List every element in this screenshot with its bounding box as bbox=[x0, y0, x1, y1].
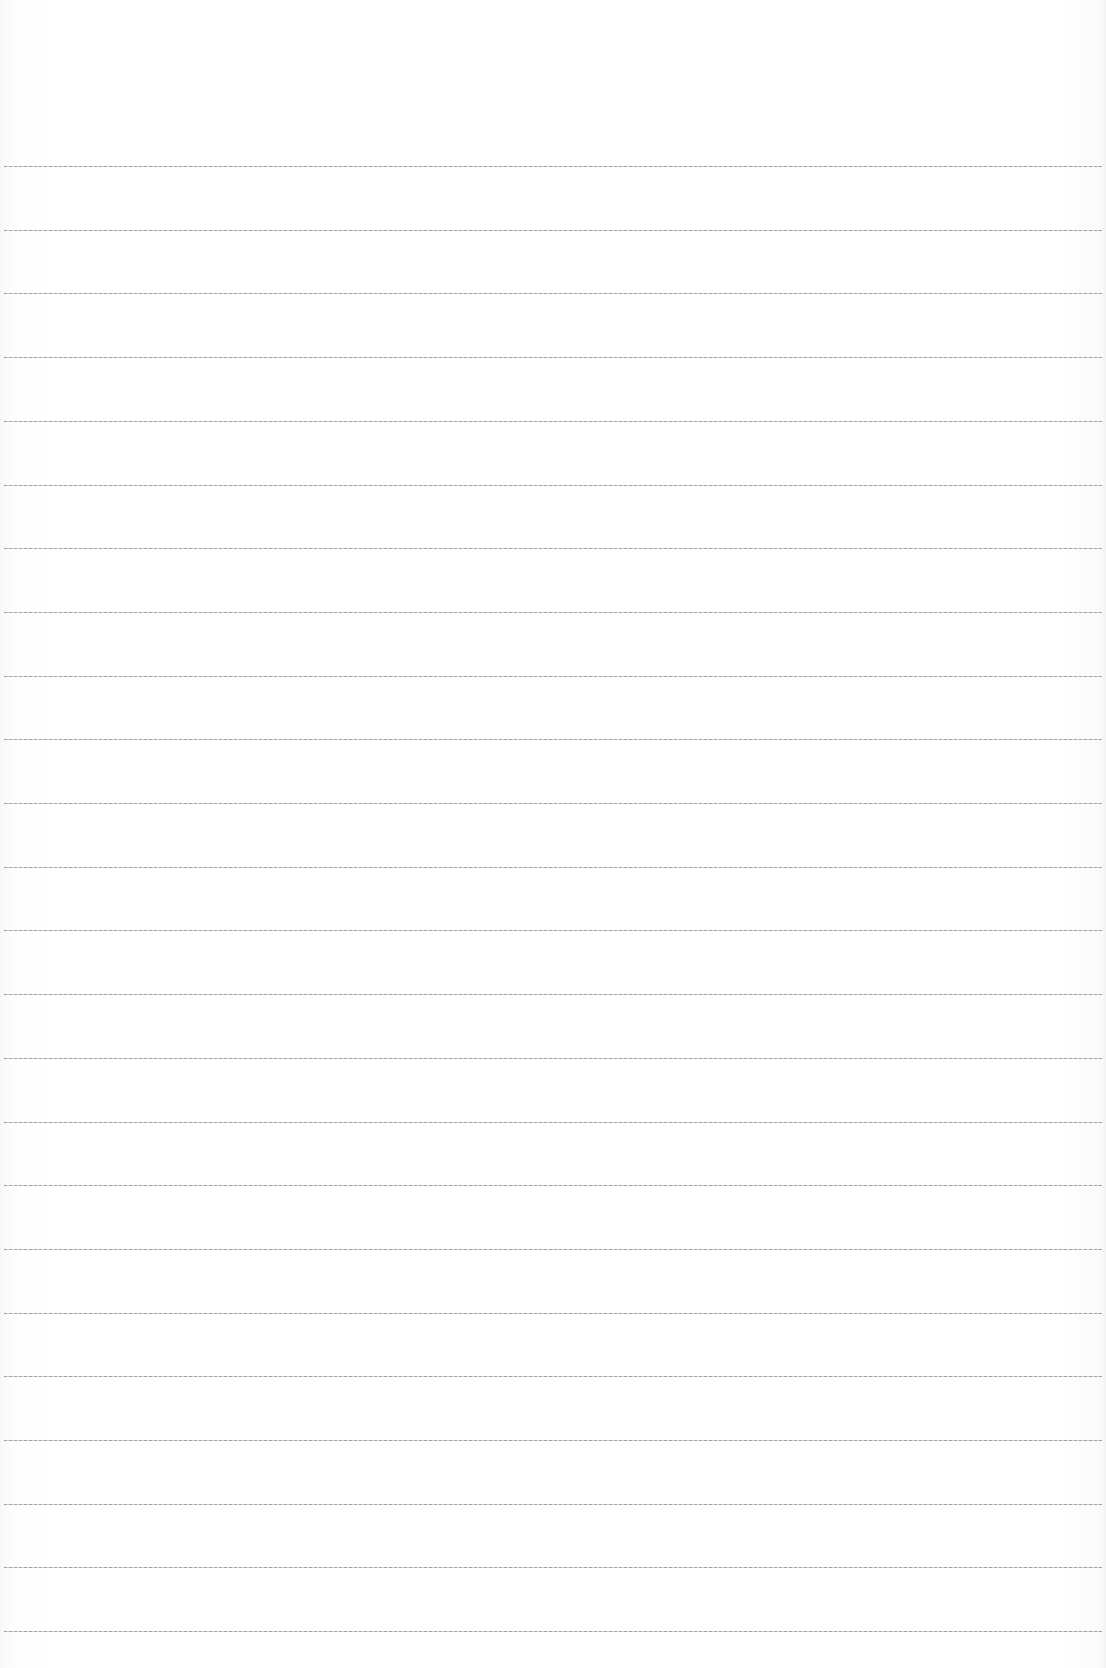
ruled-line bbox=[4, 612, 1102, 613]
ruled-line bbox=[4, 739, 1102, 740]
ruled-line bbox=[4, 421, 1102, 422]
ruled-line bbox=[4, 1631, 1102, 1632]
ruled-line bbox=[4, 293, 1102, 294]
ruled-line bbox=[4, 867, 1102, 868]
ruled-line bbox=[4, 1058, 1102, 1059]
ruled-line bbox=[4, 803, 1102, 804]
ruled-line bbox=[4, 166, 1102, 167]
ruled-line bbox=[4, 1440, 1102, 1441]
ruled-line bbox=[4, 994, 1102, 995]
ruled-line bbox=[4, 676, 1102, 677]
ruled-line bbox=[4, 930, 1102, 931]
ruled-line bbox=[4, 1313, 1102, 1314]
ruled-line bbox=[4, 548, 1102, 549]
ruled-line bbox=[4, 1376, 1102, 1377]
ruled-line bbox=[4, 230, 1102, 231]
ruled-line bbox=[4, 1567, 1102, 1568]
ruled-line bbox=[4, 1249, 1102, 1250]
ruled-line bbox=[4, 485, 1102, 486]
ruled-line bbox=[4, 1504, 1102, 1505]
ruled-line bbox=[4, 1122, 1102, 1123]
ruled-line bbox=[4, 1185, 1102, 1186]
lined-paper-sheet bbox=[0, 0, 1106, 1668]
ruled-line bbox=[4, 357, 1102, 358]
